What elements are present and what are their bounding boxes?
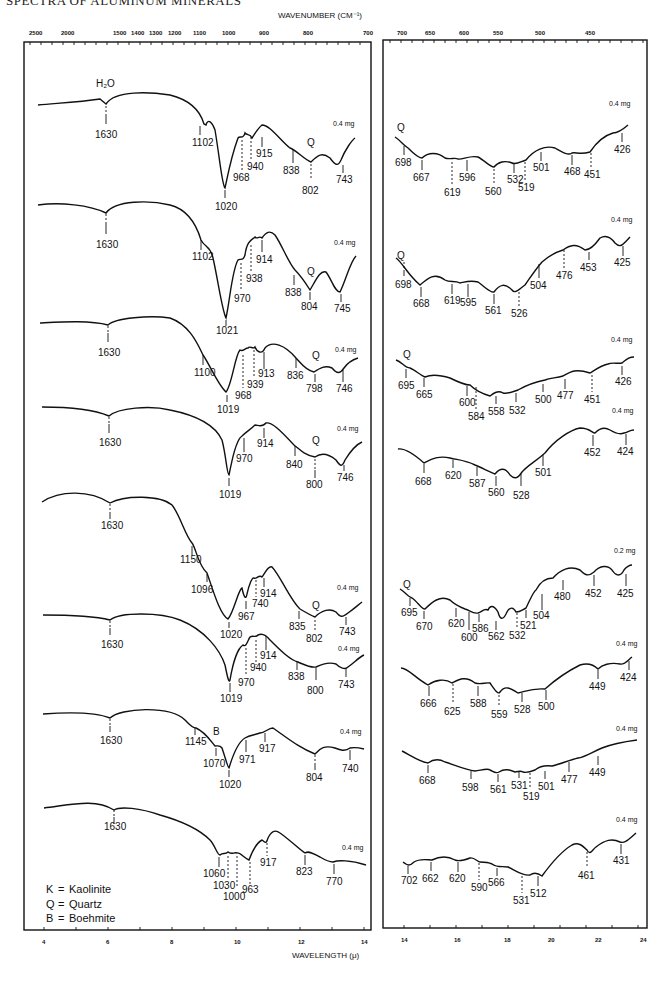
svg-text:22: 22 xyxy=(595,937,602,943)
svg-text:461: 461 xyxy=(578,870,595,881)
svg-text:0.4 mg: 0.4 mg xyxy=(337,425,359,433)
svg-text:702: 702 xyxy=(401,875,418,886)
svg-text:480: 480 xyxy=(554,591,571,602)
svg-text:504: 504 xyxy=(530,280,547,291)
svg-text:Q: Q xyxy=(312,435,320,446)
svg-text:Boehmite: Boehmite xyxy=(69,912,115,924)
right-spectrum-1: Q 698 667 619 596 560 532 519 501 468 45… xyxy=(395,100,631,198)
svg-text:1200: 1200 xyxy=(168,30,182,36)
svg-text:938: 938 xyxy=(246,273,263,284)
svg-text:666: 666 xyxy=(420,698,437,709)
svg-text:453: 453 xyxy=(580,262,597,273)
svg-text:0.4 mg: 0.4 mg xyxy=(337,584,359,592)
svg-text:743: 743 xyxy=(338,679,355,690)
svg-text:2500: 2500 xyxy=(29,30,43,36)
svg-text:500: 500 xyxy=(535,394,552,405)
svg-text:24: 24 xyxy=(640,937,647,943)
svg-text:620: 620 xyxy=(449,873,466,884)
svg-text:662: 662 xyxy=(422,873,439,884)
svg-text:625: 625 xyxy=(444,706,461,717)
svg-text:1150: 1150 xyxy=(180,554,202,565)
svg-text:836: 836 xyxy=(287,370,304,381)
svg-text:1019: 1019 xyxy=(217,404,240,415)
svg-text:939: 939 xyxy=(247,379,264,390)
svg-text:1100: 1100 xyxy=(193,30,207,36)
svg-text:451: 451 xyxy=(584,394,601,405)
svg-text:14: 14 xyxy=(401,937,408,943)
svg-text:914: 914 xyxy=(256,254,273,265)
svg-text:1630: 1630 xyxy=(95,129,118,140)
svg-text:970: 970 xyxy=(234,293,251,304)
svg-text:500: 500 xyxy=(535,30,546,36)
svg-text:1070: 1070 xyxy=(203,758,226,769)
svg-text:Q: Q xyxy=(403,349,411,360)
svg-text:Q: Q xyxy=(312,350,320,361)
svg-text:426: 426 xyxy=(614,144,631,155)
svg-text:=: = xyxy=(58,898,64,910)
svg-text:B: B xyxy=(46,912,53,924)
right-spectrum-3: Q 695 665 600 584 558 532 500 477 451 42… xyxy=(396,336,634,422)
svg-text:968: 968 xyxy=(233,172,250,183)
svg-text:698: 698 xyxy=(395,279,412,290)
svg-text:1630: 1630 xyxy=(100,735,123,746)
svg-text:532: 532 xyxy=(509,630,526,641)
svg-text:450: 450 xyxy=(585,30,596,36)
left-spectrum-1: H₂O 1630 1102 1020 968 940 915 838 Q 802… xyxy=(38,78,355,212)
svg-text:838: 838 xyxy=(283,165,300,176)
right-bottom-tick-labels: 14 16 18 20 22 24 xyxy=(401,937,647,943)
svg-text:531: 531 xyxy=(513,895,530,906)
svg-text:526: 526 xyxy=(511,308,528,319)
svg-text:Q: Q xyxy=(312,600,320,611)
svg-text:668: 668 xyxy=(413,298,430,309)
svg-text:798: 798 xyxy=(306,383,323,394)
svg-text:519: 519 xyxy=(523,791,540,802)
boehmite-marker: 1145 xyxy=(185,736,207,747)
svg-text:1000: 1000 xyxy=(222,30,236,36)
left-spectrum-3: 1630 1100 1019 968 939 913 836 Q 798 746… xyxy=(40,317,358,415)
svg-text:0.4 mg: 0.4 mg xyxy=(612,407,634,415)
svg-text:1030: 1030 xyxy=(213,880,236,891)
svg-text:449: 449 xyxy=(589,681,606,692)
svg-text:501: 501 xyxy=(535,467,552,478)
left-spectrum-6: 1630 1019 970 940 914 838 800 743 0.4 mg xyxy=(43,614,364,704)
svg-text:700: 700 xyxy=(397,30,408,36)
svg-text:504: 504 xyxy=(533,610,550,621)
svg-text:743: 743 xyxy=(336,174,353,185)
svg-text:1100: 1100 xyxy=(194,367,216,378)
svg-text:802: 802 xyxy=(302,185,319,196)
svg-text:431: 431 xyxy=(613,855,630,866)
svg-text:521: 521 xyxy=(520,620,537,631)
sample-mass: 0.4 mg xyxy=(333,120,355,128)
svg-text:452: 452 xyxy=(584,447,601,458)
svg-text:1021: 1021 xyxy=(216,325,239,336)
svg-text:804: 804 xyxy=(306,772,323,783)
svg-text:740: 740 xyxy=(252,598,269,609)
svg-text:670: 670 xyxy=(416,621,433,632)
svg-text:590: 590 xyxy=(471,882,488,893)
svg-text:Kaolinite: Kaolinite xyxy=(69,883,111,895)
svg-text:900: 900 xyxy=(259,30,270,36)
right-spectrum-5: Q 695 670 620 600 586 562 532 521 504 48… xyxy=(400,547,636,643)
svg-text:698: 698 xyxy=(395,157,412,168)
svg-text:917: 917 xyxy=(260,857,277,868)
svg-text:914: 914 xyxy=(260,588,277,599)
svg-text:1300: 1300 xyxy=(149,30,163,36)
svg-text:566: 566 xyxy=(488,877,505,888)
svg-text:838: 838 xyxy=(288,671,305,682)
wavenumber-axis-title: WAVENUMBER (CM⁻¹) xyxy=(278,11,362,20)
svg-text:501: 501 xyxy=(533,162,550,173)
svg-text:620: 620 xyxy=(445,470,462,481)
svg-text:915: 915 xyxy=(256,148,273,159)
svg-text:745: 745 xyxy=(334,303,351,314)
svg-text:804: 804 xyxy=(301,301,318,312)
svg-text:587: 587 xyxy=(469,478,486,489)
svg-text:10: 10 xyxy=(234,939,241,945)
svg-text:562: 562 xyxy=(488,631,505,642)
svg-text:Q: Q xyxy=(307,266,315,277)
svg-text:519: 519 xyxy=(518,182,535,193)
svg-text:0.2 mg: 0.2 mg xyxy=(614,547,636,555)
svg-text:477: 477 xyxy=(557,390,574,401)
svg-text:917: 917 xyxy=(259,743,276,754)
svg-text:1400: 1400 xyxy=(131,30,145,36)
svg-text:B: B xyxy=(213,726,220,737)
